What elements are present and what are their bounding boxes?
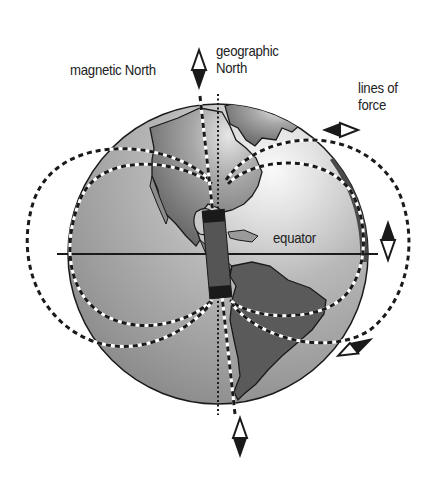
compass-needle-bottom bbox=[233, 418, 247, 458]
lines-of-force-label: lines of force bbox=[358, 79, 398, 113]
compass-needle-upper-right bbox=[322, 123, 358, 137]
geographic-north-label-line2: North bbox=[216, 59, 279, 76]
compass-needle-top bbox=[192, 50, 206, 90]
lines-of-force-label-line1: lines of bbox=[358, 79, 398, 96]
compass-needle-right bbox=[381, 220, 395, 260]
equator-label: equator bbox=[273, 229, 316, 246]
magnetic-north-label: magnetic North bbox=[70, 61, 156, 78]
geographic-north-label-line1: geographic bbox=[216, 42, 279, 59]
geographic-north-label: geographic North bbox=[216, 42, 279, 76]
lines-of-force-label-line2: force bbox=[358, 96, 398, 113]
